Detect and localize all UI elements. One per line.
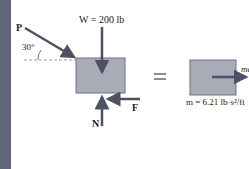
ma-label: ma	[241, 65, 249, 74]
force-p-label: P	[16, 23, 22, 33]
angle-label: 30°	[22, 43, 35, 52]
friction-label: F	[132, 103, 138, 113]
left-block	[76, 58, 125, 93]
mass-label: m = 6.21 lb·s²/ft	[186, 98, 245, 107]
fbd-graphics	[0, 0, 249, 169]
angle-arc	[38, 50, 41, 60]
weight-label: W = 200 lb	[79, 15, 124, 25]
normal-label: N	[92, 119, 99, 129]
